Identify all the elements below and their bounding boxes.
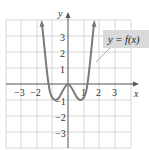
svg-text:−2: −2 bbox=[30, 87, 41, 98]
x-axis-arrow-icon bbox=[133, 82, 139, 87]
svg-text:−3: −3 bbox=[14, 87, 25, 98]
y-axis-arrow-icon bbox=[66, 12, 71, 18]
function-graph: y x −3 −2 1 2 3 3 2 1 −1 −2 −3 y = f(x) bbox=[0, 0, 149, 150]
y-axis-label: y bbox=[57, 8, 63, 19]
curve-arrow-left-icon bbox=[40, 20, 45, 27]
y-tick-labels: 3 2 1 −1 −2 −3 bbox=[55, 32, 66, 139]
svg-text:2: 2 bbox=[60, 48, 65, 59]
callout-label: y = f(x) bbox=[107, 34, 140, 46]
svg-text:−3: −3 bbox=[55, 128, 66, 139]
function-callout: y = f(x) bbox=[96, 30, 149, 62]
svg-text:3: 3 bbox=[112, 87, 117, 98]
curve-arrow-right-icon bbox=[92, 20, 97, 27]
svg-text:−2: −2 bbox=[55, 112, 66, 123]
x-axis-label: x bbox=[133, 88, 139, 99]
svg-text:3: 3 bbox=[60, 32, 65, 43]
svg-text:−1: −1 bbox=[55, 96, 66, 107]
svg-text:1: 1 bbox=[60, 64, 65, 75]
svg-text:2: 2 bbox=[96, 87, 101, 98]
